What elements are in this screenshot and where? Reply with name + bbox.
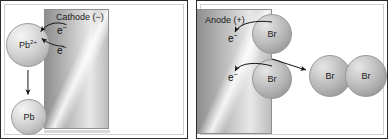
- anode-label: Anode (+): [205, 15, 245, 25]
- electron-label-cathode-1: e−: [57, 25, 67, 36]
- electron-label-cathode-2: e−: [57, 45, 67, 56]
- lead-metal-label: Pb: [23, 113, 34, 122]
- lead-ion-sphere: Pb2+: [6, 23, 50, 67]
- bromide-ion-sphere-1: Br: [252, 14, 292, 54]
- diagram-canvas: Cathode (−) Pb2+ Pb e− e−: [0, 0, 388, 139]
- bromide-ion-label-2: Br: [268, 75, 277, 84]
- cathode-shadow: [44, 130, 110, 133]
- lead-ion-label: Pb2+: [19, 41, 37, 50]
- electron-label-anode-1: e−: [228, 33, 238, 44]
- bromine-atom-label-1: Br: [326, 72, 335, 81]
- lead-ion-charge: 2+: [30, 39, 37, 45]
- cathode-panel: Cathode (−) Pb2+ Pb e− e−: [0, 0, 188, 139]
- cathode-label: Cathode (−): [56, 12, 104, 22]
- lead-metal-sphere: Pb: [11, 99, 47, 135]
- bromide-ion-label-1: Br: [268, 30, 277, 39]
- electron-label-anode-2: e−: [228, 72, 238, 83]
- cathode-electrode: [44, 9, 109, 129]
- bromide-ion-sphere-2: Br: [252, 59, 292, 99]
- bromine-molecule-sphere-2: Br: [345, 55, 387, 97]
- bromine-atom-label-2: Br: [362, 72, 371, 81]
